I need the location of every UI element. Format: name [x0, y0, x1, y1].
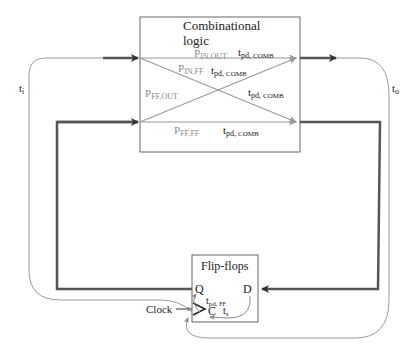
combinational-title-line1: Combinational — [183, 18, 261, 33]
port-q-label: Q — [195, 282, 204, 296]
t-output-label: to — [392, 82, 399, 96]
timing-diagram: Combinational logic PIN,OUT tpd, COMB PI… — [0, 0, 417, 355]
flip-flops-title: Flip-flops — [201, 259, 249, 273]
diagram-canvas: Combinational logic PIN,OUT tpd, COMB PI… — [0, 0, 417, 355]
port-d-label: D — [243, 282, 252, 296]
combinational-logic-block — [140, 17, 300, 152]
t-input-label: ti — [19, 82, 25, 96]
combinational-title-line2: logic — [183, 33, 209, 48]
clock-label: Clock — [146, 303, 173, 315]
